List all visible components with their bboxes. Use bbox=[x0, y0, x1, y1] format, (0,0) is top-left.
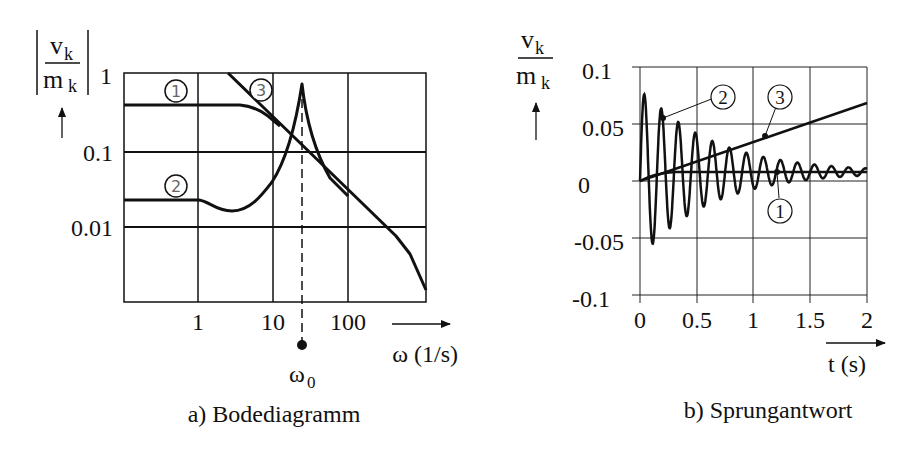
bode-chart: v k m k 1 0.1 0.01 bbox=[37, 30, 458, 427]
label-curve-1: 1 bbox=[171, 82, 181, 101]
x-tick-10: 10 bbox=[261, 309, 285, 335]
y-tick-0.1: 0.1 bbox=[582, 58, 612, 84]
y-tick-0.05: 0.05 bbox=[582, 115, 624, 141]
caption-bodediagramm: a) Bodediagramm bbox=[188, 401, 361, 427]
label-curve-3: 3 bbox=[256, 81, 266, 100]
x-tick-0: 0 bbox=[634, 307, 646, 333]
bode-x-axis-label: ω (1/s) bbox=[392, 341, 458, 367]
step-y-axis-label: v k m k bbox=[516, 25, 553, 140]
bode-curve-labels: 1 2 3 bbox=[165, 79, 272, 197]
svg-text:m: m bbox=[43, 65, 63, 94]
step-x-axis-label: t (s) bbox=[828, 351, 866, 377]
bode-curve-2 bbox=[124, 84, 348, 211]
label-curve-2: 2 bbox=[718, 87, 728, 108]
figure-canvas: v k m k 1 0.1 0.01 bbox=[0, 0, 918, 458]
y-tick-0.01: 0.01 bbox=[71, 215, 113, 241]
y-tick-0.1: 0.1 bbox=[83, 140, 113, 166]
x-tick-1: 1 bbox=[747, 307, 759, 333]
bode-curve-1 bbox=[124, 105, 280, 126]
bode-curve-3 bbox=[228, 73, 426, 290]
x-tick-100: 100 bbox=[330, 309, 366, 335]
label-curve-1: 1 bbox=[775, 201, 785, 222]
y-tick-0: 0 bbox=[578, 172, 590, 198]
svg-text:0: 0 bbox=[307, 373, 316, 392]
caption-sprungantwort: b) Sprungantwort bbox=[684, 397, 853, 423]
x-tick-0.5: 0.5 bbox=[682, 307, 712, 333]
svg-text:v: v bbox=[50, 31, 63, 60]
svg-text:m: m bbox=[516, 61, 536, 90]
label-curve-3: 3 bbox=[775, 87, 785, 108]
x-tick-1.5: 1.5 bbox=[795, 307, 825, 333]
y-tick--0.05: -0.05 bbox=[574, 229, 624, 255]
bode-y-axis-label: v k m k bbox=[37, 30, 88, 138]
x-tick-2: 2 bbox=[861, 307, 873, 333]
omega0-label: ω bbox=[289, 361, 305, 387]
svg-text:k: k bbox=[64, 44, 73, 64]
step-curve-labels: 2 3 1 bbox=[660, 85, 792, 223]
step-response-chart: v k m k 0.1 0.05 0 -0.05 -0.1 bbox=[516, 25, 885, 423]
svg-text:v: v bbox=[521, 25, 534, 54]
svg-text:k: k bbox=[68, 76, 77, 96]
omega0-dot-icon bbox=[297, 340, 307, 350]
label-curve-2: 2 bbox=[171, 177, 181, 196]
svg-text:k: k bbox=[541, 73, 550, 93]
y-tick--0.1: -0.1 bbox=[572, 286, 610, 312]
x-tick-1: 1 bbox=[192, 309, 204, 335]
svg-text:k: k bbox=[535, 38, 544, 58]
y-tick-1: 1 bbox=[100, 63, 112, 89]
